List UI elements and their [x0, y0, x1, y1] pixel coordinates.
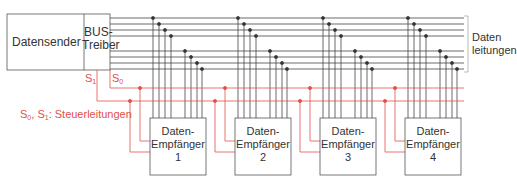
data-lines-label: Daten leitungen [472, 31, 517, 57]
receiver-label-1: Daten-Empfänger1 [150, 125, 206, 164]
receiver-label-3: Daten-Empfänger3 [320, 125, 376, 164]
receiver-label-2: Daten-Empfänger2 [235, 125, 291, 164]
sender-label: Datensender [12, 36, 81, 49]
data-bus [110, 18, 464, 69]
receiver-label-4: Daten-Empfänger4 [405, 125, 461, 164]
control-legend: S0, S1: Steuerleitungen [20, 108, 132, 124]
data-lines-bracket [464, 16, 468, 72]
s1-label: S1 [85, 72, 96, 88]
receiver-taps [151, 16, 458, 118]
driver-label-line2: Treiber [82, 39, 111, 52]
driver-label: BUS- Treiber [84, 26, 111, 52]
s0-label: S0 [112, 72, 123, 88]
